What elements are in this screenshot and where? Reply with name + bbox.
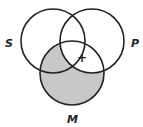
shaded-region bbox=[0, 0, 143, 127]
label-s: S bbox=[5, 37, 13, 50]
venn-diagram: S P M + bbox=[0, 0, 143, 127]
label-p: P bbox=[131, 37, 139, 50]
existence-marker: + bbox=[77, 51, 87, 65]
label-m: M bbox=[67, 113, 78, 126]
